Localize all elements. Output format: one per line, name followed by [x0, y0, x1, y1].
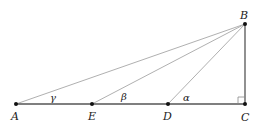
point-D: [166, 102, 170, 106]
point-A: [14, 102, 18, 106]
segment-EB: [92, 24, 245, 104]
label-C: C: [241, 111, 250, 124]
angle-gamma-label: γ: [50, 92, 56, 103]
angle-alpha-label: α: [183, 92, 190, 103]
segment-DB: [168, 24, 245, 104]
label-A: A: [10, 110, 19, 123]
point-E: [90, 102, 94, 106]
angle-beta-label: β: [120, 91, 127, 102]
label-E: E: [87, 110, 96, 123]
label-D: D: [162, 110, 172, 123]
point-C: [243, 102, 247, 106]
triangle-diagram: A E D C B γ β α: [0, 0, 256, 130]
label-B: B: [239, 9, 248, 22]
point-B: [243, 22, 247, 26]
